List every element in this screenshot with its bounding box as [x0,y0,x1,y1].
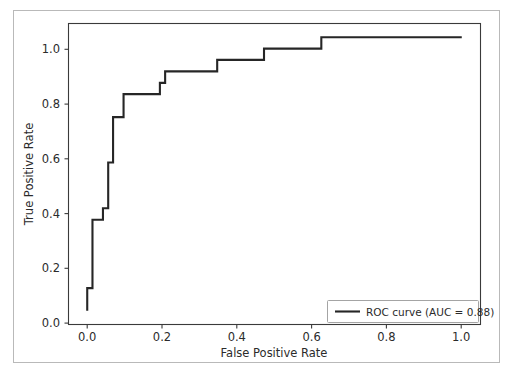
y-tick-label: 0.0 [42,316,60,330]
plot-frame [69,24,481,325]
x-tick-label: 0.6 [302,330,320,344]
y-tick-label: 0.6 [42,152,60,166]
y-tick-label: 0.4 [42,207,60,221]
x-tick-label: 0.2 [153,330,171,344]
y-axis-tick-labels: 0.0 0.2 0.4 0.6 0.8 1.0 [42,42,60,330]
bottom-caption [16,368,486,379]
y-tick-label: 0.8 [42,97,60,111]
y-axis-title: True Positive Rate [22,123,36,226]
roc-chart-svg: 0.0 0.2 0.4 0.6 0.8 1.0 0.0 0.2 0.4 0.6 … [0,0,511,379]
x-axis-ticks [87,325,461,329]
legend-label-roc: ROC curve (AUC = 0.88) [366,306,494,318]
roc-chart: 0.0 0.2 0.4 0.6 0.8 1.0 0.0 0.2 0.4 0.6 … [0,0,511,379]
x-axis-tick-labels: 0.0 0.2 0.4 0.6 0.8 1.0 [78,330,470,344]
x-tick-label: 1.0 [452,330,470,344]
x-tick-label: 0.4 [228,330,246,344]
y-tick-label: 1.0 [42,42,60,56]
roc-curve-line [87,37,462,311]
x-tick-label: 0.0 [78,330,96,344]
y-axis-ticks [65,49,69,323]
chart-legend[interactable]: ROC curve (AUC = 0.88) [328,301,495,323]
x-axis-title: False Positive Rate [221,346,328,360]
x-tick-label: 0.8 [377,330,395,344]
y-tick-label: 0.2 [42,261,60,275]
